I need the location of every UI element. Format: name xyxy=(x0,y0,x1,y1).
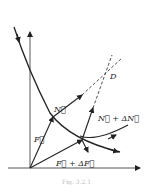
label-D: D xyxy=(109,72,117,81)
label-F: F⃗ xyxy=(33,135,45,144)
figure-caption: Fig. 3.2.1 xyxy=(62,178,91,185)
dashed-NdN-extension xyxy=(93,55,112,108)
label-N: N⃗ xyxy=(53,105,66,114)
second-curve xyxy=(80,125,128,138)
vector-diagram: F⃗ N⃗ N⃗ + ΔN⃗ F⃗ + ΔF⃗ D Fig. 3.2.1 xyxy=(0,0,148,185)
vector-N-plus-dN xyxy=(82,108,93,140)
label-N-plus-dN: N⃗ + ΔN⃗ xyxy=(97,114,139,123)
label-F-plus-dF: F⃗ + ΔF⃗ xyxy=(55,159,94,168)
